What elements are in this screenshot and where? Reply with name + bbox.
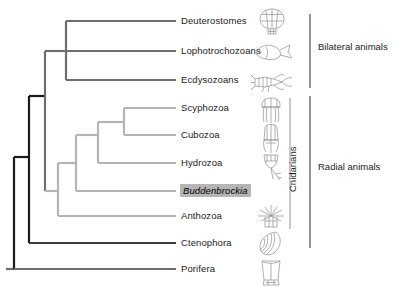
bracket-label-radial-animals: Radial animals (318, 161, 380, 172)
bracket-label-bilateral-animals: Bilateral animals (318, 41, 388, 52)
sponge-icon (257, 258, 285, 286)
tip-label-ctenophora: Ctenophora (181, 237, 232, 248)
phylogenetic-tree-figure: Deuterostomes Lophotrochozoans Ecdysozoa… (0, 0, 412, 289)
tip-label-ecdysozoans: Ecdysozoans (181, 74, 239, 85)
crustacean-icon (250, 70, 294, 94)
box-jelly-icon (257, 124, 285, 154)
sea-urchin-icon (255, 5, 289, 39)
hydra-icon (256, 152, 286, 182)
tip-label-anthozoa: Anthozoa (181, 210, 222, 221)
anemone-icon (256, 203, 286, 229)
jellyfish-icon (256, 96, 286, 124)
fish-icon (252, 40, 294, 64)
bracket-label-cnidarians: Cnidarians (287, 147, 298, 192)
tip-label-hydrozoa: Hydrozoa (181, 157, 222, 168)
tip-label-cubozoa: Cubozoa (181, 129, 220, 140)
comb-jelly-icon (256, 230, 286, 256)
tip-label-porifera: Porifera (181, 263, 215, 274)
tip-label-buddenbrockia: Buddenbrockia (180, 184, 251, 197)
tip-label-lophotrochozoans: Lophotrochozoans (181, 45, 261, 56)
tip-label-scyphozoa: Scyphozoa (181, 102, 229, 113)
tip-label-deuterostomes: Deuterostomes (181, 15, 247, 26)
